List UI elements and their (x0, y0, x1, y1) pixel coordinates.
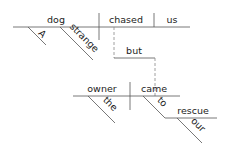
sentence-diagram: dog chased us A strange but owner came t… (0, 0, 227, 147)
prep-object: rescue (177, 105, 209, 116)
conjunction: but (126, 45, 142, 56)
clause2-verb: came (141, 83, 167, 94)
modifier-the: the (101, 94, 120, 113)
clause1-subject: dog (47, 14, 65, 25)
clause1-verb: chased (109, 14, 143, 25)
clause1-object: us (167, 14, 178, 25)
modifier-a: A (36, 27, 49, 40)
modifier-strange: strange (68, 21, 102, 55)
preposition: to (155, 94, 170, 109)
clause2-subject: owner (87, 83, 116, 94)
